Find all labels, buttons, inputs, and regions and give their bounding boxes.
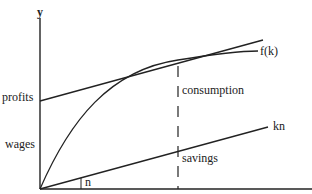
profits-label: profits (2, 91, 33, 103)
f-of-k-label: f(k) (260, 45, 278, 57)
angle-n-label: n (85, 176, 91, 188)
kn-label: kn (273, 120, 285, 132)
consumption-label: consumption (182, 84, 244, 96)
kn-line (40, 127, 268, 189)
y-axis-label: y (37, 6, 43, 18)
diagram-canvas (0, 0, 312, 194)
wages-label: wages (5, 138, 35, 150)
savings-label: savings (182, 152, 218, 164)
